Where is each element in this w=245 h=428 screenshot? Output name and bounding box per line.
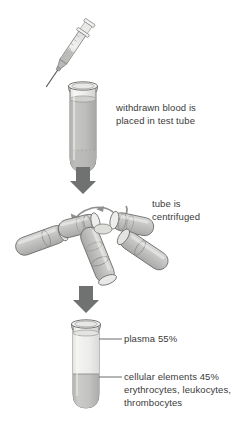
syringe bbox=[40, 18, 96, 91]
caption-withdrawn-blood: withdrawn blood is placed in test tube bbox=[116, 101, 242, 127]
test-tube-whole-blood bbox=[68, 82, 97, 173]
rotor-hub bbox=[94, 224, 112, 234]
syringe-needle bbox=[46, 70, 58, 87]
arrow-down-2 bbox=[73, 286, 99, 313]
rotor-tube-front bbox=[78, 224, 118, 287]
label-cellular-elements: cellular elements 45% erythrocytes, leuk… bbox=[124, 370, 245, 409]
test-tube-separated bbox=[71, 320, 100, 410]
caption-tube-centrifuged: tube is centrifuged bbox=[152, 197, 242, 223]
arrow-down-1 bbox=[70, 167, 96, 194]
label-plasma: plasma 55% bbox=[124, 332, 242, 345]
centrifuge-rotor bbox=[13, 206, 171, 287]
